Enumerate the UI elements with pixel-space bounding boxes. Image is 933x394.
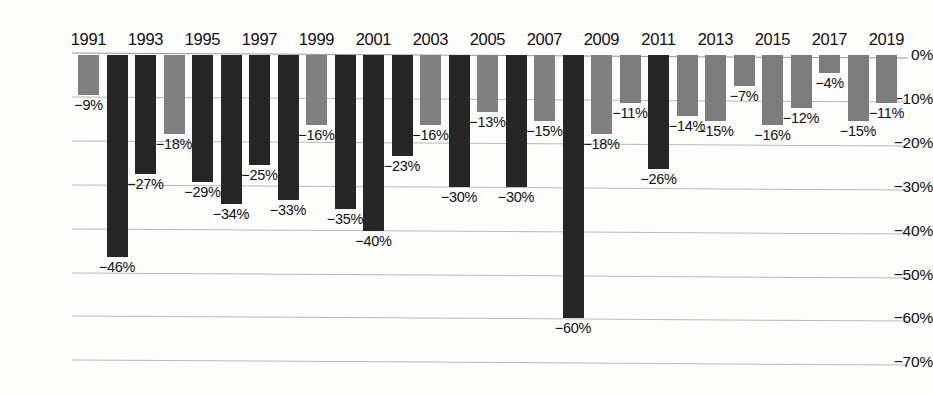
bar-value-label: −34% — [213, 206, 249, 222]
bar-value-label: −46% — [99, 259, 135, 275]
bar-value-label: −26% — [640, 171, 676, 187]
bar-value-label: −30% — [441, 189, 477, 205]
bar-value-label: −15% — [840, 123, 876, 139]
bar-value-label: −13% — [469, 114, 505, 130]
bar-value-label: −11% — [869, 105, 904, 121]
bar-value-label: −4% — [815, 75, 844, 91]
bar-value-label: −16% — [754, 127, 790, 143]
bar-chart: 0%−10%−20%−30%−40%−50%−60%−70% 199119931… — [0, 0, 933, 394]
bar-value-label: −29% — [184, 184, 220, 200]
bar-value-label: −16% — [298, 127, 334, 143]
bar-value-label: −33% — [270, 202, 306, 218]
bar-value-label: −9% — [74, 97, 103, 113]
bar-value-label: −12% — [783, 110, 819, 126]
bar-value-label: −25% — [241, 167, 277, 183]
bar-value-label: −15% — [697, 123, 733, 139]
bar-value-label: −16% — [412, 127, 448, 143]
bar-value-label: −23% — [384, 158, 420, 174]
bar-value-label: −27% — [127, 176, 163, 192]
bar-value-label: −30% — [498, 189, 534, 205]
bar-value-label: −35% — [327, 211, 363, 227]
bar-value-labels: −9%−46%−27%−18%−29%−34%−25%−33%−16%−35%−… — [0, 0, 933, 394]
bar-value-label: −7% — [730, 88, 759, 104]
bar-value-label: −15% — [526, 123, 562, 139]
bar-value-label: −40% — [355, 233, 391, 249]
bar-value-label: −18% — [156, 136, 192, 152]
bar-value-label: −18% — [583, 136, 619, 152]
bar-value-label: −11% — [612, 105, 647, 121]
bar-value-label: −60% — [555, 320, 591, 336]
